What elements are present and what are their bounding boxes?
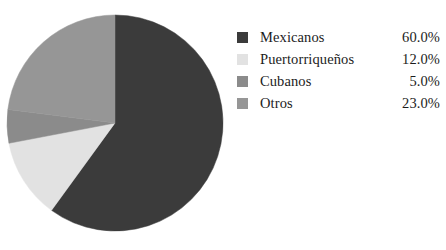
legend-swatch-puertorriquenos [237, 54, 248, 65]
legend-value-mexicanos: 60.0% [402, 26, 440, 48]
legend-swatch-cubanos [237, 76, 248, 87]
legend-row-mexicanos[interactable]: Mexicanos 60.0% [234, 26, 444, 48]
legend-row-cubanos[interactable]: Cubanos 5.0% [234, 70, 444, 92]
legend-value-cubanos: 5.0% [409, 70, 440, 92]
legend-label-puertorriquenos: Puertorriqueños [260, 48, 354, 70]
chart-legend: Mexicanos 60.0% Puertorriqueños 12.0% Cu… [234, 26, 444, 114]
legend-label-otros: Otros [260, 92, 293, 114]
legend-swatch-otros [237, 98, 248, 109]
legend-row-otros[interactable]: Otros 23.0% [234, 92, 444, 114]
legend-swatch-mexicanos [237, 32, 248, 43]
pie-chart [0, 0, 232, 250]
pie-chart-screenshot: Mexicanos 60.0% Puertorriqueños 12.0% Cu… [0, 0, 446, 250]
legend-row-puertorriquenos[interactable]: Puertorriqueños 12.0% [234, 48, 444, 70]
legend-label-cubanos: Cubanos [260, 70, 311, 92]
legend-value-otros: 23.0% [402, 92, 440, 114]
pie-slice-otros[interactable] [8, 15, 115, 123]
pie-chart-svg [0, 0, 232, 250]
legend-value-puertorriquenos: 12.0% [402, 48, 440, 70]
legend-label-mexicanos: Mexicanos [260, 26, 325, 48]
pie-slice-group [7, 15, 223, 231]
